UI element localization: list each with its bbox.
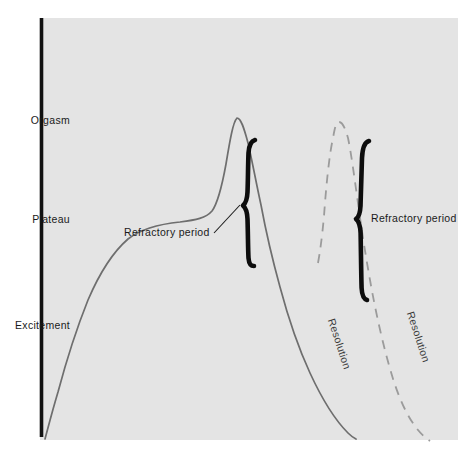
refractory-period-label-first: Refractory period [124,226,210,238]
axis-label-orgasm: Orgasm [31,114,70,126]
figure-root: Orgasm Plateau Excitement Refractory per… [0,0,473,455]
axis-label-plateau: Plateau [32,213,70,225]
refractory-period-label-second: Refractory period [371,212,457,224]
response-cycle-chart: Orgasm Plateau Excitement Refractory per… [0,0,473,455]
axis-label-excitement: Excitement [15,319,70,331]
